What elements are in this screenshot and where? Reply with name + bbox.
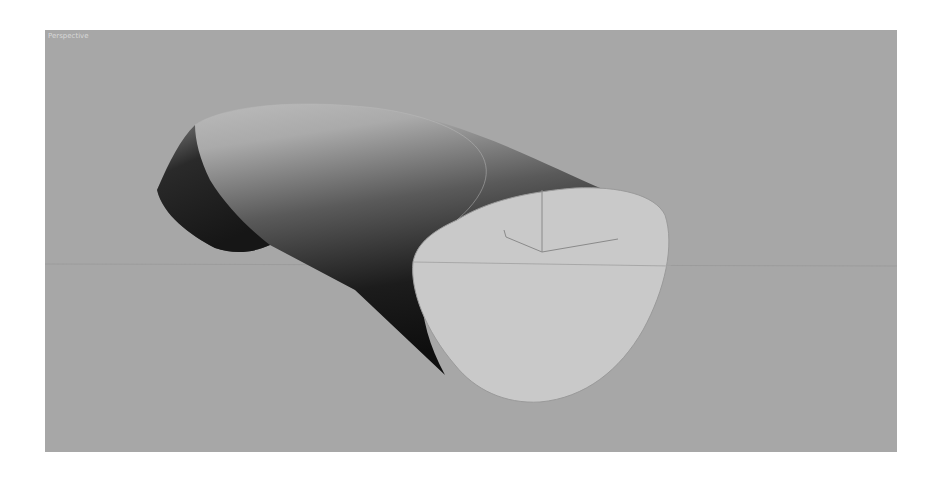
perspective-viewport[interactable]: Perspective [45, 30, 897, 452]
scene-canvas[interactable] [45, 30, 897, 452]
